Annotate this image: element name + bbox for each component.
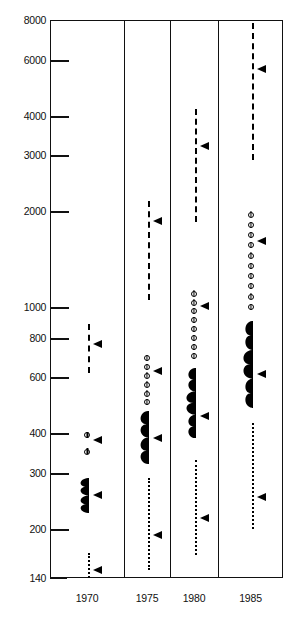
y-tick-label: 4000 (2, 111, 46, 121)
circles-series-marker (93, 436, 102, 444)
dotted-series-marker (93, 566, 102, 574)
y-tick (50, 473, 69, 475)
y-tick-label: 2000 (2, 206, 46, 216)
y-tick-label: 6000 (2, 55, 46, 65)
y-tick (50, 155, 69, 157)
data-point-circle (248, 212, 254, 218)
dashed-series (252, 23, 254, 159)
dashed-series (195, 109, 197, 222)
data-point-circle (248, 222, 254, 228)
violin-series-marker (93, 491, 102, 499)
dashed-series-marker (200, 142, 209, 150)
y-tick-label: 140 (2, 573, 46, 583)
data-point-circle (191, 353, 197, 359)
data-point-circle (248, 263, 254, 269)
dashed-series (88, 324, 90, 372)
data-point-circle (248, 294, 254, 300)
data-point-circle (144, 373, 150, 379)
y-tick (50, 578, 67, 579)
violin-series-marker (153, 434, 162, 442)
dotted-series-marker (200, 514, 209, 522)
y-tick-label: 3000 (2, 150, 46, 160)
dashed-series-marker (153, 217, 162, 225)
violin-density (184, 368, 197, 438)
y-tick (50, 338, 69, 340)
y-tick-label: 200 (2, 524, 46, 534)
y-tick (50, 116, 69, 118)
violin-series-marker (200, 412, 209, 420)
data-point-circle (144, 391, 150, 397)
data-point-circle (144, 355, 150, 361)
panel-divider (124, 20, 125, 578)
y-tick-label: 600 (2, 372, 46, 382)
dotted-series (148, 478, 150, 571)
data-point-circle (191, 291, 197, 297)
data-point-circle (191, 300, 197, 306)
dotted-series (252, 423, 254, 529)
data-point-circle (248, 232, 254, 238)
panel-divider (218, 20, 219, 578)
y-tick-label: 1000 (2, 302, 46, 312)
data-point-circle (248, 273, 254, 279)
circles-series-marker (153, 367, 162, 375)
y-tick (50, 377, 69, 379)
data-point-circle (144, 364, 150, 370)
y-tick (50, 529, 69, 531)
dashed-series (148, 201, 150, 300)
circles-series-marker (200, 302, 209, 310)
x-tick-label: 1980 (164, 592, 224, 604)
panel-divider (170, 20, 171, 578)
dotted-series (195, 460, 197, 556)
data-point-circle (191, 344, 197, 350)
circles-series-marker (257, 237, 266, 245)
y-tick (50, 60, 69, 62)
dotted-series-marker (257, 493, 266, 501)
y-tick-label: 400 (2, 428, 46, 438)
violin-density (137, 411, 150, 464)
violin-series-marker (257, 370, 266, 378)
dashed-series-marker (93, 340, 102, 348)
chart-figure: 8000600040003000200010008006004003002001… (0, 0, 295, 628)
data-point-circle (248, 304, 254, 310)
y-tick-label: 8000 (2, 15, 46, 25)
violin-density (77, 478, 90, 513)
y-tick-label: 300 (2, 468, 46, 478)
dashed-series-marker (257, 65, 266, 73)
dotted-series (88, 553, 90, 578)
y-tick (50, 433, 69, 435)
x-tick-label: 1970 (57, 592, 117, 604)
x-tick-label: 1985 (221, 592, 281, 604)
y-tick (50, 211, 69, 213)
dotted-series-marker (153, 531, 162, 539)
data-point-circle (144, 382, 150, 388)
data-point-circle (248, 253, 254, 259)
y-tick (50, 20, 67, 21)
y-tick (50, 307, 69, 309)
y-tick-label: 800 (2, 333, 46, 343)
violin-density (241, 321, 254, 408)
